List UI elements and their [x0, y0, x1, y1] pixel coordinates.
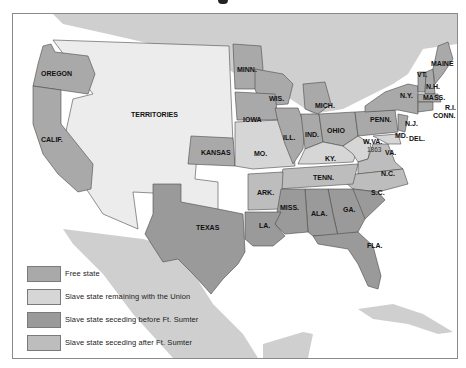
- pennsylvania-region: [355, 110, 398, 136]
- label-florida: FLA.: [367, 242, 383, 249]
- label-alabama: ALA.: [311, 210, 327, 217]
- cuba-region: [358, 304, 453, 334]
- label-mississippi: MISS.: [280, 204, 299, 211]
- map-legend: Free state Slave state remaining with th…: [27, 262, 198, 354]
- label-georgia: GA.: [343, 206, 356, 213]
- label-oregon: OREGON: [41, 70, 72, 77]
- label-maine: MAINE: [431, 60, 454, 67]
- label-louisiana: LA.: [259, 222, 270, 229]
- label-california: CALIF.: [41, 136, 63, 143]
- swatch-seceding-after: [27, 335, 61, 351]
- legend-label: Slave state seceding before Ft. Sumter: [65, 315, 198, 324]
- label-territories: TERRITORIES: [131, 111, 178, 118]
- label-new-hampshire: N.H.: [426, 83, 440, 90]
- legend-label: Free state: [65, 269, 100, 278]
- label-west-virginia: W.VA.: [363, 138, 382, 145]
- mississippi-region: [275, 189, 308, 234]
- label-west-virginia-year: 1863: [367, 146, 382, 153]
- yucatan-region: [263, 332, 313, 358]
- label-new-jersey: N.J.: [405, 120, 418, 127]
- map-frame: OREGON CALIF. TERRITORIES KANSAS TEXAS M…: [12, 13, 458, 359]
- label-ohio: OHIO: [327, 127, 345, 134]
- label-kentucky: KY.: [325, 155, 336, 162]
- label-pennsylvania: PENN.: [370, 116, 391, 123]
- label-illinois: ILL.: [283, 134, 295, 141]
- label-north-carolina: N.C.: [381, 170, 395, 177]
- title-fragment: [218, 0, 228, 4]
- label-delaware: DEL.: [409, 135, 425, 142]
- swatch-slave-union: [27, 289, 61, 305]
- label-massachusetts: MASS.: [423, 94, 445, 101]
- legend-label: Slave state remaining with the Union: [65, 292, 190, 301]
- legend-label: Slave state seceding after Ft. Sumter: [65, 338, 192, 347]
- label-arkansas: ARK.: [257, 189, 274, 196]
- label-virginia: VA.: [385, 149, 396, 156]
- label-tennessee: TENN.: [313, 174, 334, 181]
- swatch-seceding-before: [27, 312, 61, 328]
- label-kansas: KANSAS: [201, 149, 231, 156]
- label-wisconsin: WIS.: [269, 95, 284, 102]
- label-maryland: MD.: [395, 132, 408, 139]
- label-rhode-island: R.I.: [445, 104, 456, 111]
- label-south-carolina: S.C.: [371, 189, 385, 196]
- florida-region: [313, 232, 381, 289]
- label-iowa: IOWA: [243, 116, 262, 123]
- label-indiana: IND.: [305, 131, 319, 138]
- label-connecticut: CONN.: [433, 112, 456, 119]
- label-minnesota: MINN.: [237, 66, 257, 73]
- label-vermont: VT.: [417, 71, 427, 78]
- swatch-free-state: [27, 266, 61, 282]
- connecticut-region: [418, 102, 433, 112]
- label-michigan: MICH.: [315, 102, 335, 109]
- label-texas: TEXAS: [196, 224, 220, 231]
- legend-item-free-state: Free state: [27, 262, 198, 285]
- label-missouri: MO.: [254, 150, 267, 157]
- legend-item-slave-union: Slave state remaining with the Union: [27, 285, 198, 308]
- legend-item-seceding-after: Slave state seceding after Ft. Sumter: [27, 331, 198, 354]
- legend-item-seceding-before: Slave state seceding before Ft. Sumter: [27, 308, 198, 331]
- label-new-york: N.Y.: [400, 92, 413, 99]
